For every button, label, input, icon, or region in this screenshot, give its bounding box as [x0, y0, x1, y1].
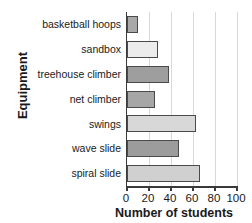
x-axis-tick-label: 20 [142, 192, 155, 204]
bar-slot [127, 136, 236, 161]
x-axis-tick-label: 60 [186, 192, 199, 204]
bar-chart: Equipment basketball hoopssandboxtreehou… [0, 0, 252, 223]
y-axis-tick-label: spiral slide [14, 161, 124, 186]
y-axis-tick-labels: basketball hoopssandboxtreehouse climber… [14, 12, 124, 186]
x-axis-tick [148, 186, 150, 191]
bar-slot [127, 37, 236, 62]
x-axis-title: Number of students [96, 206, 252, 220]
x-axis-tick [214, 186, 216, 191]
plot-area [126, 12, 236, 186]
x-axis-tick-label: 40 [164, 192, 177, 204]
y-axis-tick-label: wave slide [14, 136, 124, 161]
bar-slot [127, 87, 236, 112]
x-axis-tick-label: 0 [123, 192, 129, 204]
x-axis-tick [236, 186, 238, 191]
bar-series [127, 12, 236, 186]
x-axis-tick-label: 80 [208, 192, 221, 204]
x-axis-tick [192, 186, 194, 191]
bar [127, 91, 155, 108]
bar [127, 66, 169, 83]
y-axis-tick-label: treehouse climber [14, 62, 124, 87]
y-axis-tick-label: swings [14, 111, 124, 136]
x-axis-tick-label: 100 [226, 192, 245, 204]
bar [127, 16, 138, 33]
x-axis-line [126, 186, 236, 188]
x-axis-tick [170, 186, 172, 191]
y-axis-tick-label: net climber [14, 87, 124, 112]
bar [127, 41, 158, 58]
bar-slot [127, 12, 236, 37]
gridline [237, 12, 238, 186]
clipped-chart-title [126, 0, 236, 5]
bar-slot [127, 161, 236, 186]
bar-slot [127, 111, 236, 136]
bar [127, 115, 196, 132]
y-axis-tick-label: basketball hoops [14, 12, 124, 37]
x-axis-tick [126, 186, 128, 191]
y-axis-tick-label: sandbox [14, 37, 124, 62]
bar [127, 165, 200, 182]
bar-slot [127, 62, 236, 87]
bar [127, 140, 179, 157]
